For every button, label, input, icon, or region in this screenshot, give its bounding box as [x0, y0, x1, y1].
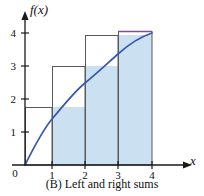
y-tick-label-1: 1: [6, 127, 16, 138]
shaded-rect-2-3: [85, 66, 118, 165]
y-tick-label-3: 3: [6, 61, 16, 72]
shaded-rect-3-4: [118, 35, 152, 165]
y-axis-arrow-icon: [21, 11, 28, 20]
shaded-rect-1-2: [52, 107, 85, 165]
figure-caption: (B) Left and right sums: [0, 178, 204, 191]
figure-left-and-right-sums: f(x) x 4 3 2 1 0 1 2 3 4 (B) Left and ri…: [0, 0, 204, 196]
x-axis-label: x: [190, 154, 196, 167]
shaded-rectangles: [52, 35, 152, 165]
y-tick-label-4: 4: [6, 28, 16, 39]
y-axis-label: f(x): [30, 3, 48, 16]
plot-area: [0, 0, 204, 196]
y-tick-label-2: 2: [6, 94, 16, 105]
